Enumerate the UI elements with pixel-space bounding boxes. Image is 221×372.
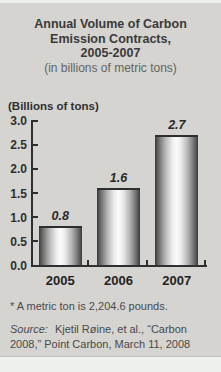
x-axis-category-label-2005: 2005 [31,273,89,288]
bar-2006 [97,188,140,265]
bar-2007 [155,135,198,266]
y-axis-tick [33,144,38,146]
y-axis-tick [33,120,38,122]
bar-2005 [39,226,82,265]
bar-value-label-2007: 2.7 [152,118,202,132]
x-axis-tick [146,260,148,265]
x-axis-line [31,265,207,267]
y-axis-tick-label: 0.5 [0,235,27,249]
x-axis-category-label-2007: 2007 [148,273,206,288]
x-axis-tick [87,260,89,265]
bar-value-label-2006: 1.6 [94,171,144,185]
y-axis-tick-label: 3.0 [0,114,27,128]
y-axis-tick [33,168,38,170]
y-axis-tick [33,192,38,194]
y-axis-tick-label: 2.0 [0,162,27,176]
footnote: * A metric ton is 2,204.6 pounds. [10,300,213,312]
x-axis-tick [204,260,206,265]
bar-value-label-2005: 0.8 [35,209,85,223]
y-axis-tick-label: 1.5 [0,187,27,201]
y-axis-tick [33,240,38,242]
chart-card: Annual Volume of Carbon Emission Contrac… [0,3,221,357]
source-line-1: Source:Kjetil Røine, et al., “Carbon [10,322,217,337]
source-line-2: 2008,” Point Carbon, March 11, 2008 [10,337,217,352]
source-line1-text: Kjetil Røine, et al., “Carbon [55,323,187,335]
y-axis-tick-label: 0.0 [0,259,27,273]
source: Source:Kjetil Røine, et al., “Carbon 200… [10,322,217,351]
y-axis-tick-label: 2.5 [0,138,27,152]
source-prefix: Source: [10,323,48,335]
y-axis-tick [33,265,38,267]
y-axis-tick-label: 1.0 [0,211,27,225]
x-axis-category-label-2006: 2006 [90,273,148,288]
